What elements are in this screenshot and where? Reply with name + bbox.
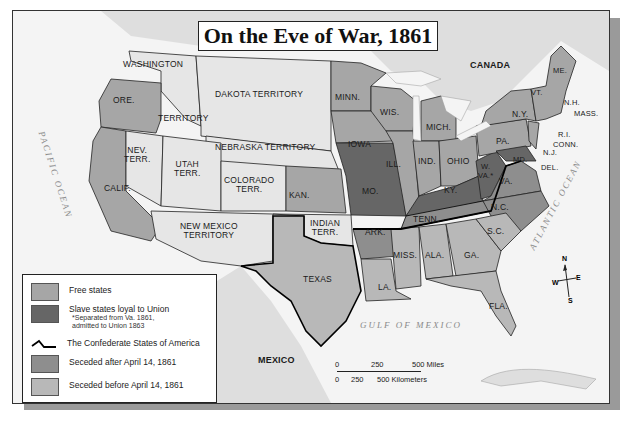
label-ill: ILL. xyxy=(386,160,401,169)
label-washington: WASHINGTON xyxy=(123,60,183,69)
label-ny: N.Y. xyxy=(512,110,528,119)
compass-n: N xyxy=(562,255,567,262)
legend-swatch-slave-loyal xyxy=(31,305,59,323)
map-title-text: On the Eve of War, 1861 xyxy=(204,23,433,49)
compass-rose-icon: N E W S xyxy=(552,255,582,305)
compass-w: W xyxy=(552,279,559,286)
label-calif: CALIF. xyxy=(104,184,131,193)
label-ala: ALA. xyxy=(425,251,444,260)
label-ky: KY. xyxy=(444,186,457,195)
label-nebraska: NEBRASKA TERRITORY xyxy=(215,143,315,152)
legend-note-wva: *Separated from Va. 1861, admitted to Un… xyxy=(69,314,169,330)
label-gulf-of-mexico: GULF OF MEXICO xyxy=(360,320,462,330)
nevada-territory xyxy=(126,131,163,206)
label-tenn: TENN. xyxy=(413,215,440,224)
label-pa: PA. xyxy=(496,137,510,146)
label-conn: CONN. xyxy=(553,140,578,149)
compass-s: S xyxy=(568,297,573,304)
scale-km-250: 250 xyxy=(351,375,364,384)
scale-km-500: 500 Kilometers xyxy=(377,375,427,384)
legend-item-seceded-after: Seceded after April 14, 1861 xyxy=(31,355,176,373)
legend-label-slave-loyal: Slave states loyal to Union xyxy=(69,305,169,314)
oregon xyxy=(99,79,161,133)
label-utah: UTAH TERR. xyxy=(174,160,201,178)
label-territory: TERRITORY xyxy=(158,114,209,123)
label-ga: GA. xyxy=(464,251,479,260)
label-wva: W. VA.* xyxy=(478,162,493,180)
compass-e: E xyxy=(576,274,581,281)
label-nc: N.C. xyxy=(491,203,509,212)
label-texas: TEXAS xyxy=(303,275,332,284)
label-fla: FLA. xyxy=(489,302,508,311)
label-md: MD. xyxy=(513,155,527,164)
label-sc: S.C. xyxy=(487,227,504,236)
map-title: On the Eve of War, 1861 xyxy=(198,21,438,51)
label-minn: MINN. xyxy=(335,93,360,102)
lake-michigan xyxy=(413,96,421,141)
label-mexico: MEXICO xyxy=(258,356,295,365)
map-legend: Free states Slave states loyal to Union … xyxy=(22,274,217,403)
dakota-territory xyxy=(196,56,331,151)
label-nev: NEV. TERR. xyxy=(124,146,151,164)
label-nj: N.J. xyxy=(543,148,557,157)
label-ohio: OHIO xyxy=(447,157,470,166)
scale-line xyxy=(337,371,421,372)
label-kan: KAN. xyxy=(289,191,310,200)
scale-bar: 0 250 500 Miles 0 250 500 Kilometers xyxy=(335,360,445,388)
legend-item-confederacy: The Confederate States of America xyxy=(31,338,200,350)
legend-swatch-free xyxy=(31,283,59,301)
label-vt: VT. xyxy=(531,88,542,97)
label-ore: ORE. xyxy=(113,96,135,105)
label-ind: IND. xyxy=(418,157,436,166)
legend-item-free-states: Free states xyxy=(31,283,112,301)
legend-swatch-seceded-before xyxy=(31,378,59,396)
legend-item-seceded-before: Seceded before April 14, 1861 xyxy=(31,378,183,396)
label-new-mexico: NEW MEXICO TERRITORY xyxy=(180,222,238,240)
label-miss: MISS. xyxy=(393,251,417,260)
label-ri: R.I. xyxy=(558,130,570,139)
label-del: DEL. xyxy=(541,163,558,172)
label-mo: MO. xyxy=(362,187,379,196)
label-mass: MASS. xyxy=(574,109,598,118)
legend-label-seceded-after: Seceded after April 14, 1861 xyxy=(69,358,176,367)
legend-label-confederacy: The Confederate States of America xyxy=(67,339,200,348)
label-dakota: DAKOTA TERRITORY xyxy=(215,90,303,99)
label-wis: WIS. xyxy=(380,108,399,117)
label-nh: N.H. xyxy=(564,98,580,107)
label-va: VA. xyxy=(499,177,513,186)
cuba-land xyxy=(481,369,596,389)
label-ark: ARK. xyxy=(365,228,386,237)
label-colorado: COLORADO TERR. xyxy=(224,176,274,194)
label-la: LA. xyxy=(378,283,391,292)
label-canada: CANADA xyxy=(470,61,510,70)
scale-miles-250: 250 xyxy=(371,360,384,369)
scale-km-0: 0 xyxy=(335,375,339,384)
legend-swatch-seceded-after xyxy=(31,355,59,373)
scale-miles-0: 0 xyxy=(335,360,339,369)
legend-label-seceded-before: Seceded before April 14, 1861 xyxy=(69,381,183,390)
legend-item-slave-loyal: Slave states loyal to Union *Separated f… xyxy=(31,305,169,330)
label-me: ME. xyxy=(553,66,567,75)
label-mich: MICH. xyxy=(426,123,451,132)
confederate-line-icon xyxy=(31,338,57,350)
scale-miles-500: 500 Miles xyxy=(412,360,444,369)
label-iowa: IOWA xyxy=(348,140,371,149)
label-indian: INDIAN TERR. xyxy=(310,219,340,237)
legend-label-free: Free states xyxy=(69,286,112,295)
